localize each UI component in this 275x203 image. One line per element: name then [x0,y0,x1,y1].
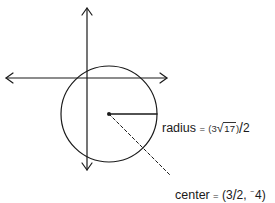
radius-open: (3 [208,123,216,134]
center-leader-dashed-line [109,114,170,175]
radius-radicand: 17 [223,122,236,134]
radius-slash: / [239,121,243,135]
center-comma: , [243,188,246,202]
center-point [107,112,111,116]
center-word: center [175,188,210,202]
center-slash: / [233,188,237,202]
center-y-value: 4 [255,188,262,202]
center-neg-sign: − [250,188,254,195]
center-open: (3 [222,188,233,202]
center-label: center = (3/2, −4) [175,185,266,203]
center-equals: = [213,190,219,201]
center-close: ) [262,188,266,202]
radius-label: radius = (3√17)/2 [162,120,250,136]
radius-denominator: 2 [243,121,250,135]
radius-word: radius [162,121,196,135]
radius-equals: = [199,123,205,134]
coordinate-diagram [0,0,275,203]
sqrt-icon: √17 [217,121,236,136]
